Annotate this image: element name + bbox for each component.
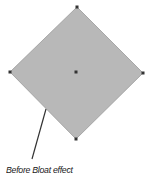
diagram-canvas — [0, 0, 158, 181]
anchor-point-right — [142, 72, 145, 75]
diagram-caption: Before Bloat effect — [6, 164, 73, 175]
anchor-point-left — [9, 71, 12, 74]
center-point — [75, 71, 78, 74]
leader-line — [32, 109, 46, 159]
anchor-point-bottom — [75, 138, 78, 141]
anchor-point-top — [76, 6, 79, 9]
